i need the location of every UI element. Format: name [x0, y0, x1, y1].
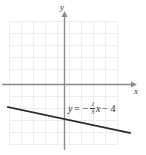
- equation-equals: =: [72, 104, 81, 114]
- equation-constant-sign: −: [100, 104, 109, 114]
- equation-minus-sign: −: [81, 104, 90, 114]
- linear-function-figure: y x y = − 1 3 x − 4: [0, 0, 146, 155]
- x-axis-label: x: [134, 87, 138, 96]
- equation-label: y = − 1 3 x − 4: [68, 101, 117, 116]
- equation-constant: 4: [109, 104, 117, 114]
- equation-fraction: 1 3: [90, 101, 95, 116]
- graph-canvas: [0, 0, 146, 155]
- y-axis-label: y: [60, 3, 64, 12]
- y-axis: [62, 11, 68, 150]
- fraction-numerator: 1: [90, 101, 95, 108]
- fraction-denominator: 3: [90, 109, 95, 116]
